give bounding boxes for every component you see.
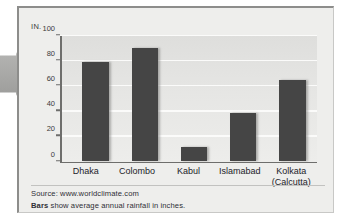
bar-kolkata-calcutta xyxy=(279,80,306,161)
x-axis-label-line: Islamabad xyxy=(215,166,264,177)
x-axis-labels-group: DhakaColomboKabulIslamabadKolkata(Calcut… xyxy=(60,166,317,187)
note-bold-label: Bars xyxy=(31,201,48,210)
x-axis-label-5: Kolkata(Calcutta) xyxy=(267,166,316,187)
y-axis-tick-label: 80 xyxy=(29,48,60,57)
y-axis-tick-label: 0 xyxy=(29,149,60,158)
note-text: Bars show average annual rainfall in inc… xyxy=(31,201,325,210)
plot-wrapper: 020406080100 xyxy=(49,36,317,163)
x-axis-label-line: Kolkata xyxy=(267,166,316,177)
y-axis-tick-label: 40 xyxy=(29,99,60,108)
x-axis-label-1: Dhaka xyxy=(61,166,110,187)
rainfall-bar-chart-figure: IN. 020406080100 DhakaColomboKabulIslama… xyxy=(0,0,344,221)
bars-group xyxy=(71,36,317,161)
bar-slot xyxy=(221,36,265,161)
chart-footer: Source: www.worldclimate.com Bars show a… xyxy=(31,189,325,210)
bar-dhaka xyxy=(82,62,109,160)
x-axis-label-4: Islamabad xyxy=(215,166,264,187)
source-text: Source: www.worldclimate.com xyxy=(31,189,325,198)
x-axis-label-line: Colombo xyxy=(113,166,162,177)
bar-colombo xyxy=(132,48,159,160)
bar-slot xyxy=(270,36,314,161)
footer-divider xyxy=(31,185,325,186)
x-axis-label-line: Dhaka xyxy=(61,166,110,177)
bar-slot xyxy=(123,36,167,161)
bar-slot xyxy=(172,36,216,161)
bar-islamabad xyxy=(230,113,257,160)
chart-panel: IN. 020406080100 DhakaColomboKabulIslama… xyxy=(17,6,334,213)
bar-slot xyxy=(73,36,117,161)
x-axis-label-2: Colombo xyxy=(113,166,162,187)
y-axis-tick-label: 100 xyxy=(29,23,60,32)
y-axis-line xyxy=(60,36,62,163)
y-axis-tick-label: 20 xyxy=(29,124,60,133)
note-rest-label: show average annual rainfall in inches. xyxy=(48,201,185,210)
x-axis-label-3: Kabul xyxy=(164,166,213,187)
bar-kabul xyxy=(181,147,208,161)
x-axis-label-line: Kabul xyxy=(164,166,213,177)
y-axis-tick-label: 60 xyxy=(29,73,60,82)
plot-area: 020406080100 xyxy=(60,36,317,163)
